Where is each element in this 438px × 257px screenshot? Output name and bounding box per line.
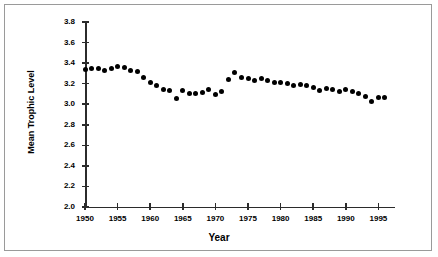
data-point xyxy=(272,80,277,85)
x-tick-label: 1970 xyxy=(198,215,232,223)
data-point xyxy=(102,68,107,73)
x-axis-line xyxy=(85,207,395,209)
y-tick-label: 3.4 xyxy=(49,59,75,67)
data-point xyxy=(122,65,127,70)
x-tick xyxy=(312,203,314,210)
x-tick xyxy=(345,203,347,210)
data-point xyxy=(180,88,185,93)
data-point xyxy=(285,81,290,86)
x-tick xyxy=(182,203,184,210)
data-point xyxy=(219,89,224,94)
data-point xyxy=(213,92,218,97)
y-tick-label: 3.8 xyxy=(49,18,75,26)
data-point xyxy=(311,85,316,90)
data-point xyxy=(376,95,381,100)
data-point xyxy=(363,94,368,99)
x-tick xyxy=(247,203,249,210)
y-tick xyxy=(82,124,89,126)
data-point xyxy=(382,95,387,100)
y-axis-line xyxy=(85,22,87,208)
x-tick-label: 1960 xyxy=(133,215,167,223)
x-tick xyxy=(117,203,119,210)
chart-figure: Mean Trophic Level Year 2.02.22.42.62.83… xyxy=(0,0,438,257)
x-tick xyxy=(280,203,282,210)
y-tick-label: 2.4 xyxy=(49,162,75,170)
data-point xyxy=(265,78,270,83)
data-point xyxy=(343,87,348,92)
data-point xyxy=(356,91,361,96)
x-tick-label: 1955 xyxy=(101,215,135,223)
y-tick-label: 3.6 xyxy=(49,39,75,47)
data-point xyxy=(350,89,355,94)
y-tick xyxy=(82,145,89,147)
y-tick xyxy=(82,103,89,105)
data-point xyxy=(278,80,283,85)
data-point xyxy=(167,88,172,93)
data-point xyxy=(135,69,140,74)
y-tick xyxy=(82,186,89,188)
x-tick-label: 1995 xyxy=(361,215,395,223)
data-point xyxy=(259,76,264,81)
x-tick xyxy=(378,203,380,210)
y-tick-label: 2.8 xyxy=(49,121,75,129)
data-point xyxy=(83,67,88,72)
y-tick xyxy=(82,42,89,44)
x-tick-label: 1950 xyxy=(68,215,102,223)
x-tick-label: 1980 xyxy=(264,215,298,223)
data-point xyxy=(206,87,211,92)
data-point xyxy=(239,75,244,80)
data-point xyxy=(317,88,322,93)
data-point xyxy=(154,83,159,88)
y-tick-label: 3.0 xyxy=(49,100,75,108)
data-point xyxy=(324,86,329,91)
x-tick xyxy=(84,203,86,210)
data-point xyxy=(330,87,335,92)
y-tick-label: 2.2 xyxy=(49,182,75,190)
data-point xyxy=(174,96,179,101)
y-tick-label: 2.6 xyxy=(49,141,75,149)
data-point xyxy=(226,77,231,82)
data-point xyxy=(128,68,133,73)
data-point xyxy=(232,70,237,75)
x-tick-label: 1990 xyxy=(329,215,363,223)
data-point xyxy=(369,99,374,104)
data-point xyxy=(304,83,309,88)
data-point xyxy=(148,80,153,85)
y-tick xyxy=(82,21,89,23)
data-point xyxy=(89,66,94,71)
data-point xyxy=(96,66,101,71)
plot-area: Mean Trophic Level Year 2.02.22.42.62.83… xyxy=(0,0,438,257)
data-point xyxy=(298,82,303,87)
y-axis-label: Mean Trophic Level xyxy=(26,32,36,192)
y-tick xyxy=(82,83,89,85)
data-point xyxy=(252,78,257,83)
y-tick-label: 3.2 xyxy=(49,80,75,88)
x-axis-label: Year xyxy=(0,232,438,243)
data-point xyxy=(246,76,251,81)
x-tick xyxy=(215,203,217,210)
y-tick xyxy=(82,165,89,167)
data-point xyxy=(291,83,296,88)
x-tick xyxy=(149,203,151,210)
data-point xyxy=(187,91,192,96)
data-point xyxy=(337,89,342,94)
x-tick-label: 1965 xyxy=(166,215,200,223)
x-tick-label: 1985 xyxy=(296,215,330,223)
data-point xyxy=(161,87,166,92)
data-point xyxy=(109,66,114,71)
data-point xyxy=(193,91,198,96)
data-point xyxy=(200,90,205,95)
y-tick-label: 2.0 xyxy=(49,203,75,211)
data-point xyxy=(115,64,120,69)
y-tick xyxy=(82,62,89,64)
data-point xyxy=(141,75,146,80)
x-tick-label: 1975 xyxy=(231,215,265,223)
